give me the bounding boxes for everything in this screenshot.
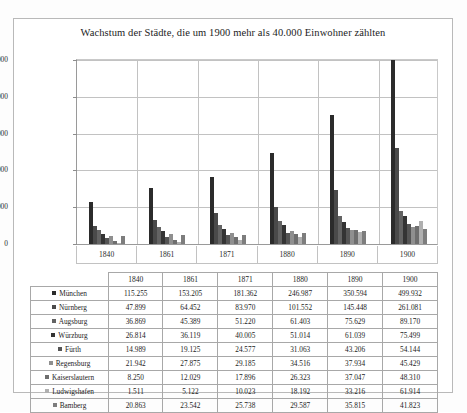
table-row: Nürnberg47.89964.45283.970101.552145.448…: [31, 301, 438, 315]
table-cell: 75.499: [383, 329, 438, 343]
legend-swatch-icon: [45, 389, 49, 393]
table-row: Ludwigshafen1.5115.12210.02318.19233.216…: [31, 385, 438, 399]
table-cell: 26.814: [109, 329, 163, 343]
table-series-name: Regensburg: [56, 359, 91, 368]
table-series-name-cell: Fürth: [31, 343, 109, 357]
x-axis-label: 1840: [76, 246, 137, 264]
table-cell: 29.587: [273, 399, 328, 413]
x-axis-label: 1871: [197, 246, 257, 264]
table-cell: 18.192: [273, 385, 328, 399]
bar-group: [198, 60, 258, 244]
table-cell: 51.220: [218, 315, 273, 329]
table-cell: 54.144: [383, 343, 438, 357]
table-cell: 27.875: [163, 357, 218, 371]
table-cell: 153.205: [163, 287, 218, 301]
plot-area: [76, 59, 438, 245]
table-cell: 37.047: [328, 371, 383, 385]
table-cell: 34.516: [273, 357, 328, 371]
table-header-row: 184018611871188018901900: [31, 273, 438, 287]
table-cell: 43.206: [328, 343, 383, 357]
table-cell: 350.594: [328, 287, 383, 301]
table-cell: 261.081: [383, 301, 438, 315]
bar-group: [258, 60, 318, 244]
table-year-header: 1840: [109, 273, 163, 287]
bar-group: [379, 60, 439, 244]
table-series-name: Ludwigshafen: [52, 387, 94, 396]
table-cell: 33.216: [328, 385, 383, 399]
table-year-header: 1861: [163, 273, 218, 287]
table-year-header: 1871: [218, 273, 273, 287]
y-axis-tick-label: 500.000: [0, 55, 8, 64]
table-cell: 45.389: [163, 315, 218, 329]
table-cell: 145.448: [328, 301, 383, 315]
table-year-header: 1880: [273, 273, 328, 287]
table-cell: 48.310: [383, 371, 438, 385]
y-axis-tick-label: 0: [0, 239, 8, 248]
table-cell: 499.932: [383, 287, 438, 301]
table-cell: 246.987: [273, 287, 328, 301]
bar: [181, 235, 185, 244]
table-cell: 61.039: [328, 329, 383, 343]
legend-swatch-icon: [45, 375, 49, 379]
legend-swatch-icon: [52, 305, 56, 309]
bar: [302, 233, 306, 244]
chart-frame: Wachstum der Städte, die um 1900 mehr al…: [13, 18, 453, 393]
y-axis-tick-label: 300.000: [0, 128, 8, 137]
table-series-name: Augsburg: [59, 317, 88, 326]
bar: [423, 229, 427, 244]
table-cell: 115.255: [109, 287, 163, 301]
table-row: Fürth14.98919.12524.57731.06343.20654.14…: [31, 343, 438, 357]
x-axis-labels: 184018611871188018901900: [76, 246, 438, 264]
table-cell: 1.511: [109, 385, 163, 399]
x-axis-label: 1880: [258, 246, 318, 264]
legend-swatch-icon: [51, 333, 55, 337]
table-cell: 35.815: [328, 399, 383, 413]
table-corner-cell: [31, 273, 109, 287]
data-table: 184018611871188018901900 München115.2551…: [30, 272, 438, 413]
table-cell: 17.896: [218, 371, 273, 385]
table-series-name-cell: Nürnberg: [31, 301, 109, 315]
table-cell: 47.899: [109, 301, 163, 315]
table-series-name-cell: Bamberg: [31, 399, 109, 413]
chart-title: Wachstum der Städte, die um 1900 mehr al…: [14, 27, 452, 38]
table-series-name-cell: München: [31, 287, 109, 301]
table-cell: 41.823: [383, 399, 438, 413]
table-series-name: München: [59, 289, 87, 298]
y-axis-tick-label: 200.000: [0, 165, 8, 174]
table-cell: 23.542: [163, 399, 218, 413]
table-cell: 181.362: [218, 287, 273, 301]
table-series-name: Fürth: [65, 345, 81, 354]
legend-swatch-icon: [52, 319, 56, 323]
table-cell: 19.125: [163, 343, 218, 357]
table-cell: 31.063: [273, 343, 328, 357]
y-gridline: [77, 244, 437, 245]
table-cell: 8.250: [109, 371, 163, 385]
bar-group: [77, 60, 137, 244]
table-series-name-cell: Kaiserslautern: [31, 371, 109, 385]
table-cell: 21.942: [109, 357, 163, 371]
table-cell: 101.552: [273, 301, 328, 315]
bar-group: [318, 60, 378, 244]
table-cell: 29.185: [218, 357, 273, 371]
table-cell: 37.934: [328, 357, 383, 371]
data-table-wrapper: 184018611871188018901900 München115.2551…: [30, 272, 438, 413]
y-axis-tick: [73, 244, 77, 245]
y-axis-tick-label: 100.000: [0, 202, 8, 211]
table-row: München115.255153.205181.362246.987350.5…: [31, 287, 438, 301]
table-row: Würzburg26.81436.11940.00551.01461.03975…: [31, 329, 438, 343]
table-cell: 12.029: [163, 371, 218, 385]
table-series-name-cell: Würzburg: [31, 329, 109, 343]
legend-swatch-icon: [49, 361, 53, 365]
table-row: Kaiserslautern8.25012.02917.89626.32337.…: [31, 371, 438, 385]
table-cell: 26.323: [273, 371, 328, 385]
x-axis-label: 1861: [137, 246, 197, 264]
table-row: Augsburg36.86945.38951.22061.40375.62989…: [31, 315, 438, 329]
table-cell: 51.014: [273, 329, 328, 343]
table-cell: 36.119: [163, 329, 218, 343]
table-body: München115.255153.205181.362246.987350.5…: [31, 287, 438, 413]
table-series-name: Nürnberg: [59, 303, 87, 312]
plot-canvas: [76, 59, 438, 245]
table-cell: 83.970: [218, 301, 273, 315]
y-axis-tick-label: 400.000: [0, 91, 8, 100]
x-axis-label: 1900: [378, 246, 438, 264]
